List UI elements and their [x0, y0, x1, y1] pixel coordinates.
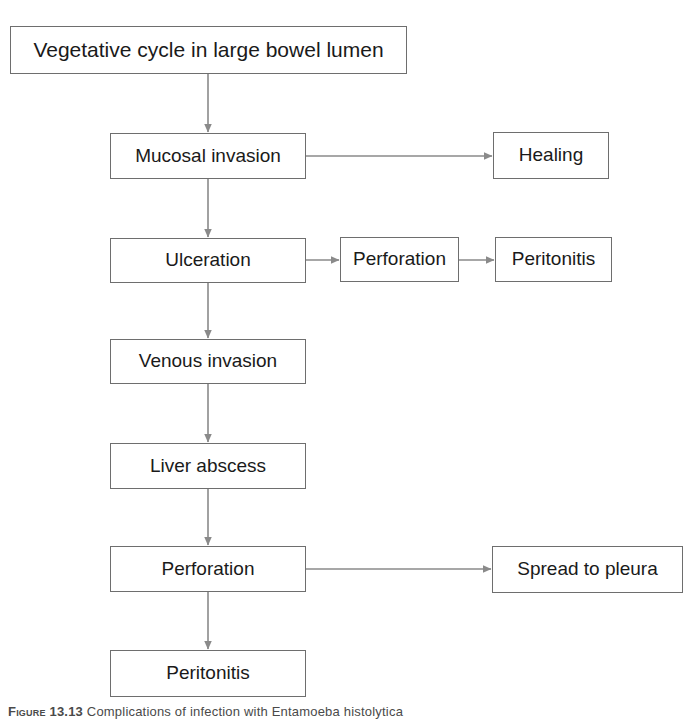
node-label: Peritonitis	[512, 249, 595, 270]
node-liver-abscess[interactable]: Liver abscess	[110, 443, 306, 489]
node-ulceration[interactable]: Ulceration	[110, 238, 306, 283]
node-label: Spread to pleura	[517, 559, 658, 580]
node-label: Perforation	[353, 249, 446, 270]
node-label: Perforation	[162, 559, 255, 580]
node-label: Mucosal invasion	[135, 146, 281, 167]
figure-caption: Figure 13.13 Complications of infection …	[8, 704, 648, 719]
node-healing[interactable]: Healing	[493, 132, 609, 179]
node-perforation-lower[interactable]: Perforation	[110, 546, 306, 592]
node-label: Ulceration	[165, 250, 251, 271]
node-label: Healing	[519, 145, 583, 166]
node-peritonitis-lower[interactable]: Peritonitis	[110, 650, 306, 697]
flowchart-edges	[0, 0, 699, 719]
node-label: Venous invasion	[139, 351, 277, 372]
node-label: Liver abscess	[150, 456, 266, 477]
node-vegetative-cycle[interactable]: Vegetative cycle in large bowel lumen	[10, 26, 407, 74]
node-mucosal-invasion[interactable]: Mucosal invasion	[110, 133, 306, 179]
node-label: Peritonitis	[166, 663, 249, 684]
figure-caption-text: Complications of infection with Entamoeb…	[87, 704, 403, 719]
node-perforation-upper[interactable]: Perforation	[340, 237, 459, 282]
flowchart-canvas: Vegetative cycle in large bowel lumen Mu…	[0, 0, 699, 719]
node-label: Vegetative cycle in large bowel lumen	[33, 38, 383, 61]
node-venous-invasion[interactable]: Venous invasion	[110, 339, 306, 384]
figure-number: Figure 13.13	[8, 704, 83, 719]
node-peritonitis-upper[interactable]: Peritonitis	[495, 237, 612, 282]
node-spread-to-pleura[interactable]: Spread to pleura	[492, 546, 683, 593]
